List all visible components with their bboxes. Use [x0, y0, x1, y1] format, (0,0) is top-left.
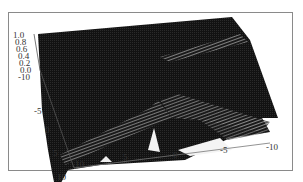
z-axis-ticks: 1.0 0.8 0.6 0.4 0.2 0.0 — [13, 30, 32, 75]
svg-text:-10: -10 — [266, 142, 278, 152]
svg-text:0: 0 — [45, 125, 50, 135]
svg-text:0: 0 — [173, 150, 178, 160]
svg-text:-10: -10 — [18, 72, 30, 82]
svg-text:5: 5 — [53, 148, 58, 158]
svg-text:10: 10 — [75, 159, 85, 169]
svg-text:10: 10 — [57, 172, 67, 182]
svg-text:-5: -5 — [34, 106, 42, 116]
surface-plot: 1.0 0.8 0.6 0.4 0.2 0.0 -10 -5 0 5 10 10… — [0, 0, 303, 182]
svg-text:5: 5 — [123, 152, 128, 162]
svg-text:-5: -5 — [220, 145, 228, 155]
